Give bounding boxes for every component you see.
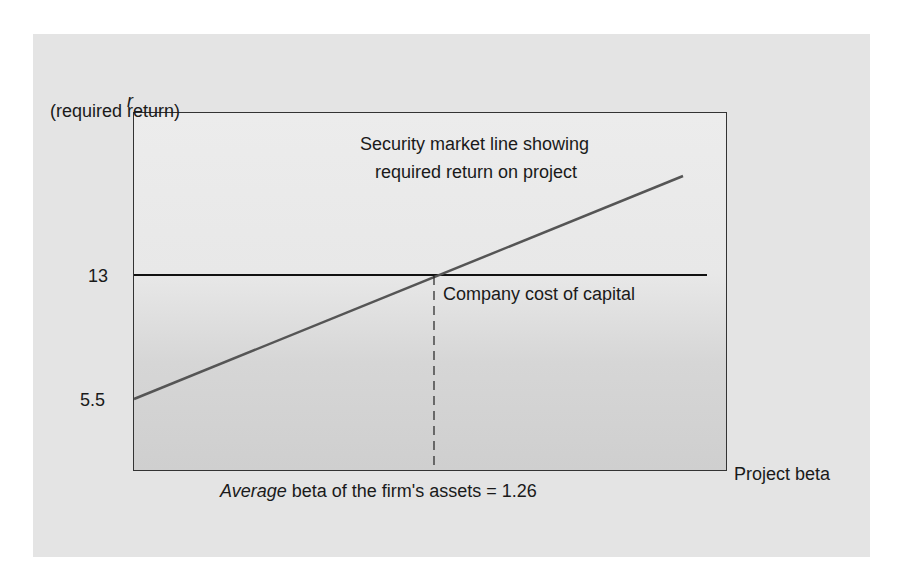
caption-italic: Average <box>220 481 287 501</box>
y-tick-13: 13 <box>88 267 108 285</box>
cost-of-capital-label: Company cost of capital <box>443 285 635 303</box>
sml-annotation-line2: required return on project <box>375 163 577 181</box>
average-beta-caption: Average beta of the firm's assets = 1.26 <box>220 482 537 500</box>
y-axis-label: (required return) <box>50 102 180 120</box>
caption-text: beta of the firm's assets = 1.26 <box>287 481 537 501</box>
sml-annotation-line1: Security market line showing <box>360 135 589 153</box>
x-axis-label: Project beta <box>734 465 830 483</box>
y-tick-5-5: 5.5 <box>80 391 105 409</box>
